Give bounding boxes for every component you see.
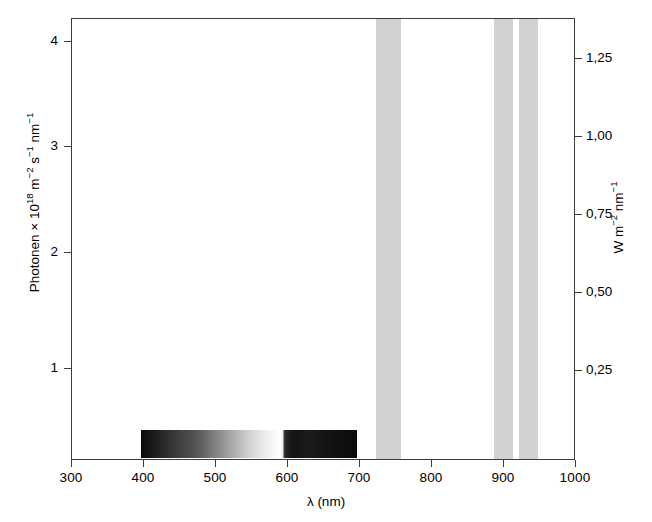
y-left-tick-3 xyxy=(64,146,71,147)
y-left-title-exp3: −1 xyxy=(24,146,35,157)
x-tick-label-700: 700 xyxy=(324,470,394,485)
x-tick-1000 xyxy=(575,460,576,467)
x-tick-label-300: 300 xyxy=(36,470,106,485)
x-tick-label-400: 400 xyxy=(108,470,178,485)
y-right-tick-0-50 xyxy=(575,292,582,293)
y-left-title-prefix: Photonen × 10 xyxy=(27,204,42,292)
spectral-irradiance-chart: 300 400 500 600 700 800 900 1000 4 3 2 1… xyxy=(0,0,652,522)
x-tick-label-900: 900 xyxy=(468,470,538,485)
x-tick-900 xyxy=(503,460,504,467)
y-left-title-mid3: nm xyxy=(27,124,42,147)
x-tick-label-600: 600 xyxy=(252,470,322,485)
x-tick-600 xyxy=(287,460,288,467)
y-left-title-exp2: −2 xyxy=(24,168,35,179)
y-left-tick-4 xyxy=(64,41,71,42)
x-tick-400 xyxy=(143,460,144,467)
y-right-tick-0-75 xyxy=(575,214,582,215)
y-right-tick-0-25 xyxy=(575,370,582,371)
x-tick-700 xyxy=(359,460,360,467)
spectral-band-1 xyxy=(376,19,401,459)
y-axis-right-title: W m−2 nm−1 xyxy=(611,118,626,318)
x-tick-300 xyxy=(71,460,72,467)
y-left-tick-2 xyxy=(64,252,71,253)
y-left-title-mid2: s xyxy=(27,157,42,168)
y-axis-left-title: Photonen × 1018 m−2 s−1 nm−1 xyxy=(27,73,42,333)
y-right-title-exp1: −2 xyxy=(608,215,619,226)
y-right-tick-label-1-25: 1,25 xyxy=(586,50,612,65)
x-tick-label-500: 500 xyxy=(180,470,250,485)
y-right-tick-1-25 xyxy=(575,58,582,59)
y-left-title-mid1: m xyxy=(27,178,42,193)
spectral-band-3 xyxy=(519,19,538,459)
y-right-title-exp2: −1 xyxy=(608,182,619,193)
y-left-title-exp1: 18 xyxy=(24,193,35,204)
visible-spectrum-gradient-bar xyxy=(141,430,357,458)
x-tick-label-1000: 1000 xyxy=(540,470,610,485)
y-left-tick-label-4: 4 xyxy=(30,33,58,48)
y-right-title-mid: nm xyxy=(611,192,626,215)
x-axis-title: λ (nm) xyxy=(0,494,652,509)
x-tick-label-800: 800 xyxy=(396,470,466,485)
y-right-tick-label-1-00: 1,00 xyxy=(586,128,612,143)
y-left-tick-label-1: 1 xyxy=(30,360,58,375)
y-right-tick-label-0-25: 0,25 xyxy=(586,362,612,377)
y-right-title-prefix: W m xyxy=(611,226,626,254)
y-right-tick-1-00 xyxy=(575,136,582,137)
x-tick-800 xyxy=(431,460,432,467)
y-left-tick-1 xyxy=(64,368,71,369)
y-right-tick-label-0-50: 0,50 xyxy=(586,284,612,299)
y-left-title-exp4: −1 xyxy=(24,113,35,124)
plot-area xyxy=(71,18,575,460)
spectral-band-2 xyxy=(494,19,513,459)
x-tick-500 xyxy=(215,460,216,467)
